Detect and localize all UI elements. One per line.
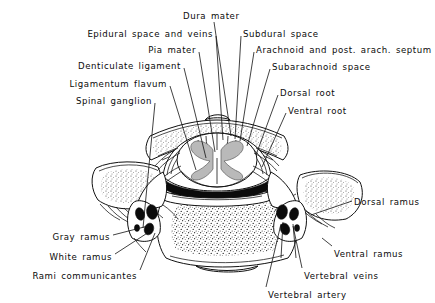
label-ventral-ramus: Ventral ramus [334,249,403,259]
label-gray-ramus: Gray ramus [53,232,110,242]
label-subarachnoid: Subarachnoid space [272,62,371,72]
label-vertebral-artery: Vertebral artery [268,290,347,300]
label-dorsal-root: Dorsal root [280,88,335,98]
label-denticulate: Denticulate ligament [78,61,181,71]
label-dura-mater: Dura mater [183,11,240,21]
label-vertebral-veins: Vertebral veins [304,271,379,281]
label-subdural-space: Subdural space [243,29,319,39]
spinal-cord [177,133,257,187]
label-arachnoid: Arachnoid and post. arach. septum [256,45,432,55]
label-spinal-ganglion: Spinal ganglion [76,96,152,106]
left-vertebral-vessels [128,201,161,252]
label-ventral-root: Ventral root [288,106,347,116]
label-epidural-space: Epidural space and veins [87,29,213,39]
label-dorsal-ramus: Dorsal ramus [354,197,420,207]
label-pia-mater: Pia mater [148,45,196,55]
label-ligamentum-flavum: Ligamentum flavum [70,79,167,89]
leader-ventral-ramus [322,238,332,246]
label-white-ramus: White ramus [50,252,112,262]
anatomical-figure: Dura materEpidural space and veinsPia ma… [0,0,435,303]
label-rami-communicantes: Rami communicantes [32,271,137,281]
